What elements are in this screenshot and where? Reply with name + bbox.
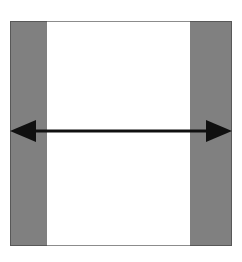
diagram-frame <box>10 21 232 246</box>
top-edge-rule <box>47 21 190 22</box>
white-center-panel <box>47 21 190 246</box>
right-gray-bar <box>190 21 232 246</box>
diagram-canvas <box>0 0 242 262</box>
bottom-edge-rule <box>47 245 190 246</box>
left-gray-bar <box>10 21 47 246</box>
